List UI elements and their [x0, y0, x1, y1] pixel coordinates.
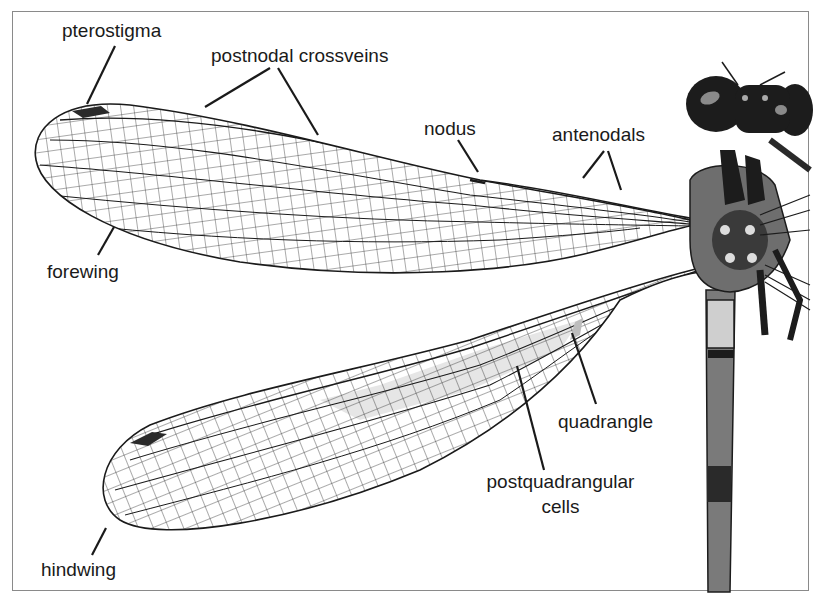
label-postquadrangular-cells: postquadrangular cells	[473, 472, 648, 517]
leader-postnodal-2	[278, 68, 318, 135]
leader-nodus	[458, 140, 478, 172]
leader-hindwing	[92, 528, 106, 555]
damselfly-illustration	[0, 0, 822, 610]
leader-postnodal-1	[205, 68, 270, 107]
forewing	[30, 90, 700, 290]
leader-antenodals-1	[583, 151, 604, 178]
label-postnodal-crossveins: postnodal crossveins	[211, 46, 388, 66]
label-quadrangle: quadrangle	[558, 412, 653, 432]
label-postquadrangular-line1: postquadrangular	[473, 472, 648, 492]
label-pterostigma: pterostigma	[62, 21, 161, 41]
damselfly-body	[686, 62, 813, 592]
label-forewing: forewing	[47, 262, 119, 282]
label-postquadrangular-line2: cells	[473, 497, 648, 517]
label-nodus: nodus	[424, 119, 476, 139]
leader-pterostigma	[87, 46, 115, 104]
leader-antenodals-2	[608, 151, 621, 190]
label-antenodals: antenodals	[552, 125, 645, 145]
label-hindwing: hindwing	[41, 560, 116, 580]
leader-forewing	[98, 227, 114, 255]
